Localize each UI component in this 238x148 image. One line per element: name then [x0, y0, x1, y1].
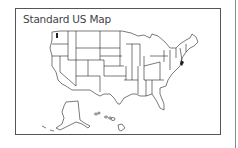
- hawaii: [95, 112, 126, 131]
- alaska: [42, 101, 90, 131]
- puget-sound-icon: [56, 33, 58, 38]
- us-map: [0, 0, 238, 148]
- contiguous-us: [50, 31, 198, 110]
